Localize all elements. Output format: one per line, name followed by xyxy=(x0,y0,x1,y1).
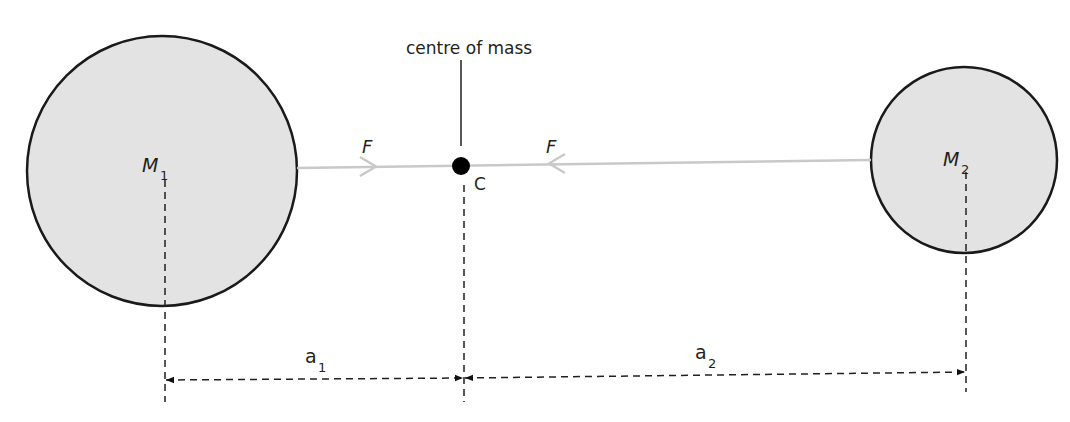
force-line xyxy=(297,160,871,168)
mass-2-body xyxy=(871,67,1057,253)
mass-2-subscript: 2 xyxy=(961,162,969,177)
mass-2-label: M xyxy=(943,148,959,170)
distance-a1-label: a xyxy=(305,345,317,367)
mass-1-subscript: 1 xyxy=(160,168,168,183)
distance-a1-arrow xyxy=(166,378,463,380)
two-body-diagram: centre of mass C F F M 1 M 2 a 1 a 2 xyxy=(0,0,1070,422)
force-label-left: F xyxy=(362,136,373,157)
mass-1-label: M xyxy=(142,154,158,176)
centre-of-mass-dot xyxy=(452,157,470,175)
centre-point-label: C xyxy=(474,174,486,194)
centre-of-mass-label: centre of mass xyxy=(406,38,532,58)
force-label-right: F xyxy=(546,136,557,157)
distance-a2-subscript: 2 xyxy=(708,356,716,371)
distance-a2-label: a xyxy=(695,341,707,363)
distance-a2-arrow xyxy=(465,372,965,378)
distance-a1-subscript: 1 xyxy=(318,360,326,375)
